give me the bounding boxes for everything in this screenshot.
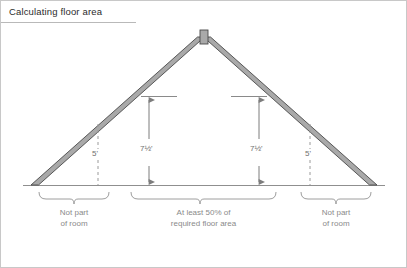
center-caption-line2: required floor area bbox=[131, 219, 276, 230]
left-rafter bbox=[31, 37, 205, 185]
left-caption: Not part of room bbox=[39, 208, 109, 229]
right-rafter bbox=[204, 37, 378, 185]
left-caption-line2: of room bbox=[39, 219, 109, 230]
left-headroom-label: 7½' bbox=[139, 144, 154, 154]
right-eave-height-label: 5' bbox=[304, 149, 312, 159]
right-brace bbox=[301, 192, 371, 204]
center-brace bbox=[131, 192, 276, 204]
center-caption-line1: At least 50% of bbox=[131, 208, 276, 219]
right-caption-line2: of room bbox=[301, 219, 371, 230]
ridge-post bbox=[200, 30, 208, 44]
center-caption: At least 50% of required floor area bbox=[131, 208, 276, 229]
left-caption-line1: Not part bbox=[39, 208, 109, 219]
right-headroom-label: 7½' bbox=[249, 144, 264, 154]
left-brace bbox=[39, 192, 109, 204]
figure-container: Calculating floor area bbox=[0, 0, 407, 268]
right-caption-line1: Not part bbox=[301, 208, 371, 219]
left-eave-height-label: 5' bbox=[91, 149, 99, 159]
right-caption: Not part of room bbox=[301, 208, 371, 229]
